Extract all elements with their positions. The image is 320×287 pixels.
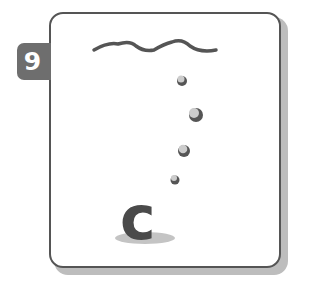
water-waves-icon: [94, 41, 216, 51]
sinking-letter: c: [120, 188, 156, 248]
bubble-icon: [171, 175, 180, 185]
bubble-icon: [189, 108, 203, 122]
bubble-icon: [177, 76, 187, 87]
bubble-icons: [171, 76, 204, 185]
bubble-icon: [178, 145, 190, 157]
